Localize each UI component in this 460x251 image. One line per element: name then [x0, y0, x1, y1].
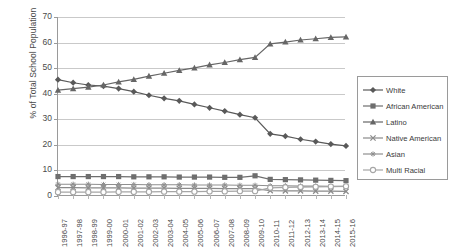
data-point-marker — [146, 92, 152, 98]
legend-item-asian[interactable]: Asian — [362, 146, 447, 162]
data-point-marker — [282, 133, 288, 139]
x-axis-tick-label: 2014-15 — [333, 219, 342, 247]
data-point-marker — [116, 174, 121, 179]
data-point-marker — [283, 185, 288, 190]
data-point-marker — [192, 189, 197, 194]
data-point-marker — [101, 174, 106, 179]
x-axis-tick-label: 2005-06 — [196, 219, 205, 247]
series-latino — [55, 34, 349, 93]
data-point-marker — [252, 189, 257, 194]
data-point-marker — [222, 189, 227, 194]
y-axis-tick-label: 10 — [26, 165, 52, 174]
x-axis-tick-label: 2008-09 — [242, 219, 251, 247]
x-axis-tick-label: 1998-99 — [90, 219, 99, 247]
data-point-marker — [86, 174, 91, 179]
x-axis-tick-label: 2015-16 — [348, 219, 357, 247]
data-point-marker — [313, 184, 318, 189]
x-axis-tick-label: 1999-00 — [105, 219, 114, 247]
legend-label: Asian — [386, 150, 405, 159]
data-point-marker — [146, 174, 151, 179]
data-point-marker — [237, 175, 242, 180]
data-point-marker — [101, 190, 106, 195]
x-axis-tick-label: 1997-98 — [75, 219, 84, 247]
data-point-marker — [116, 189, 121, 194]
data-point-marker — [131, 189, 136, 194]
legend-label: Latino — [386, 118, 407, 127]
data-point-marker — [55, 77, 61, 83]
x-axis-tick-label: 2001-02 — [136, 219, 145, 247]
y-axis-tick-label: 50 — [26, 63, 52, 72]
data-point-marker — [313, 138, 319, 144]
x-axis-tick-label: 2004-05 — [181, 219, 190, 247]
data-point-marker — [191, 101, 197, 107]
data-point-marker — [192, 182, 197, 187]
data-point-marker — [116, 86, 122, 92]
legend-item-native-american[interactable]: Native American — [362, 130, 447, 146]
y-axis-tick-label: 60 — [26, 38, 52, 47]
legend-marker-star-icon — [362, 147, 384, 161]
data-point-marker — [176, 98, 182, 104]
data-point-marker — [283, 177, 288, 182]
data-point-marker — [55, 182, 60, 187]
data-point-marker — [146, 182, 151, 187]
legend-marker-triangle-icon — [362, 115, 384, 129]
data-point-marker — [146, 189, 151, 194]
data-point-marker — [101, 182, 106, 187]
data-point-marker — [370, 103, 375, 108]
legend-marker-diamond-icon — [362, 83, 384, 97]
data-point-marker — [162, 174, 167, 179]
data-point-marker — [343, 143, 349, 149]
data-point-marker — [370, 87, 376, 93]
data-point-marker — [131, 174, 136, 179]
y-axis-tick-label: 0 — [26, 191, 52, 200]
x-axis-tick-label: 2006-07 — [212, 219, 221, 247]
data-point-marker — [131, 89, 137, 95]
x-axis-tick-label: 2007-08 — [227, 219, 236, 247]
y-axis-tick-label: 30 — [26, 114, 52, 123]
x-axis-tick-label: 2009-10 — [257, 219, 266, 247]
data-point-marker — [222, 175, 227, 180]
plot-area — [57, 17, 345, 196]
x-axis-tick-labels: 1996-971997-981998-991999-002000-012001-… — [57, 199, 345, 251]
data-point-marker — [71, 174, 76, 179]
legend-marker-circle-icon — [362, 163, 384, 177]
line-chart: % of Total School Population 01020304050… — [0, 0, 460, 251]
data-point-marker — [71, 190, 76, 195]
data-point-marker — [131, 182, 136, 187]
data-point-marker — [313, 178, 318, 183]
data-point-marker — [177, 189, 182, 194]
x-axis-tick-mark — [346, 195, 347, 199]
legend-item-white[interactable]: White — [362, 82, 447, 98]
y-axis-title: % of Total School Population — [28, 0, 38, 148]
legend-item-african-american[interactable]: African American — [362, 98, 447, 114]
legend-item-latino[interactable]: Latino — [362, 114, 447, 130]
series-white — [55, 77, 349, 149]
data-point-marker — [207, 174, 212, 179]
legend: WhiteAfrican AmericanLatinoNative Americ… — [357, 76, 448, 180]
data-point-marker — [207, 189, 212, 194]
x-axis-tick-label: 2002-03 — [151, 219, 160, 247]
data-point-marker — [268, 185, 273, 190]
x-axis-tick-label: 2003-04 — [166, 219, 175, 247]
data-point-marker — [70, 80, 76, 86]
x-axis-tick-label: 2013-14 — [318, 219, 327, 247]
x-axis-tick-label: 2000-01 — [121, 219, 130, 247]
data-point-marker — [86, 182, 91, 187]
data-point-marker — [161, 95, 167, 101]
data-point-marker — [328, 184, 333, 189]
data-point-marker — [298, 177, 303, 182]
legend-item-multi-racial[interactable]: Multi Racial — [362, 162, 447, 178]
x-axis-tick-label: 2011-12 — [287, 220, 296, 247]
x-axis-tick-label: 1996-97 — [60, 219, 69, 247]
x-axis-tick-label: 2010-11 — [272, 220, 281, 247]
data-point-marker — [252, 173, 257, 178]
data-point-marker — [177, 174, 182, 179]
data-point-marker — [328, 141, 334, 147]
data-point-marker — [55, 174, 60, 179]
y-axis-tick-label: 40 — [26, 89, 52, 98]
data-point-marker — [162, 182, 167, 187]
data-point-marker — [86, 190, 91, 195]
data-point-marker — [207, 182, 212, 187]
series-layer — [58, 17, 346, 196]
data-point-marker — [370, 151, 375, 156]
